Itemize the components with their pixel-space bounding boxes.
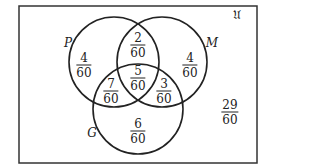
region-p-only: 460 [76, 52, 91, 79]
region-p-m: 260 [130, 32, 145, 59]
region-outside: 2960 [221, 99, 238, 126]
region-m-only: 460 [182, 52, 197, 79]
region-p-g: 760 [103, 78, 118, 105]
set-label-g: G [87, 126, 97, 140]
set-label-p: P [64, 36, 72, 50]
region-p-m-g: 560 [130, 65, 145, 92]
region-g-only: 660 [130, 118, 145, 145]
region-m-g: 360 [156, 78, 171, 105]
universe-label: 𝔘 [233, 8, 241, 22]
set-label-m: M [206, 36, 218, 50]
